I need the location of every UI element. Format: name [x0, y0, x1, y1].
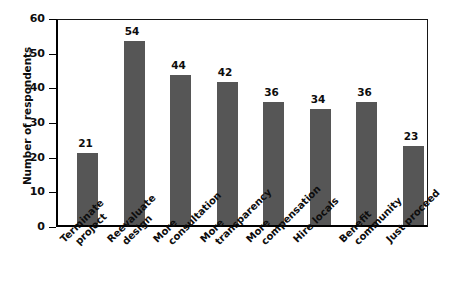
y-tick-0	[49, 227, 56, 228]
y-tick-30	[49, 123, 56, 124]
bar-value-more-compensation: 36	[254, 87, 289, 98]
y-tick-60	[49, 19, 56, 20]
bar-chart-figure: Number of respondents 0 10 20 30 40 50 6…	[0, 0, 458, 307]
y-tick-label-20: 20	[14, 152, 45, 163]
bar-value-more-consultation: 44	[161, 60, 196, 71]
y-tick-40	[49, 88, 56, 89]
bar-value-just-proceed: 23	[394, 131, 429, 142]
y-tick-label-10: 10	[14, 186, 45, 197]
y-tick-label-50: 50	[14, 48, 45, 59]
y-tick-label-0: 0	[14, 221, 45, 232]
y-tick-10	[49, 192, 56, 193]
y-tick-label-40: 40	[14, 82, 45, 93]
y-tick-50	[49, 54, 56, 55]
y-tick-label-30: 30	[14, 117, 45, 128]
bar-value-hire-locals: 34	[301, 94, 336, 105]
bar-value-benefit-community: 36	[347, 87, 382, 98]
y-tick-label-60: 60	[14, 13, 45, 24]
bar-value-more-transparency: 42	[208, 67, 243, 78]
bar-reevaluate-design	[124, 41, 145, 226]
bar-value-reevaluate-design: 54	[115, 26, 150, 37]
y-tick-20	[49, 158, 56, 159]
bar-value-terminate-project: 21	[68, 138, 103, 149]
